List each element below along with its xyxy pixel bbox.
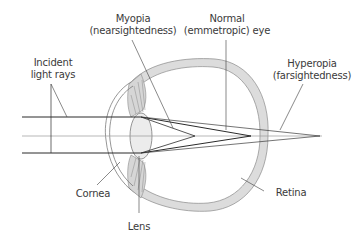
label-incident-line1: Incident <box>22 57 84 69</box>
label-incident-line2: light rays <box>22 69 84 81</box>
label-retina: Retina <box>266 187 316 199</box>
normal-ray-upper <box>141 117 251 136</box>
leader-incident <box>51 84 67 117</box>
label-normal-line2: (emmetropic) eye <box>182 25 272 37</box>
normal-ray-lower <box>141 136 251 153</box>
label-myopia-line1: Myopia <box>88 13 178 25</box>
label-cornea: Cornea <box>68 188 118 200</box>
eye-refraction-diagram <box>0 0 356 245</box>
label-lens: Lens <box>122 221 156 233</box>
label-hyperopia-line1: Hyperopia <box>270 58 354 70</box>
label-normal-line1: Normal <box>182 13 272 25</box>
label-hyperopia: Hyperopia (farsightedness) <box>270 58 354 82</box>
label-incident-light-rays: Incident light rays <box>22 57 84 81</box>
label-normal: Normal (emmetropic) eye <box>182 13 272 37</box>
label-hyperopia-line2: (farsightedness) <box>270 70 354 82</box>
label-myopia-line2: (nearsightedness) <box>88 25 178 37</box>
label-myopia: Myopia (nearsightedness) <box>88 13 178 37</box>
